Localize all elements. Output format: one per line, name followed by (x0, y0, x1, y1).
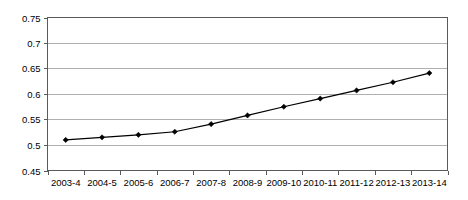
x-axis-tick-labels: 2003-42004-52005-62006-72007-82008-92009… (51, 177, 447, 188)
x-tick-label: 2009-10 (266, 177, 301, 188)
x-tick-label: 2007-8 (196, 177, 226, 188)
x-tick-label: 2011-12 (340, 177, 374, 188)
y-tick-label: 0.65 (22, 63, 41, 74)
y-tick-label: 0.6 (27, 89, 40, 100)
y-tick-label: 0.55 (22, 114, 41, 125)
x-tick-label: 2010-11 (303, 177, 337, 188)
x-tick-label: 2003-4 (51, 177, 81, 188)
x-tick-label: 2004-5 (87, 177, 117, 188)
y-tick-label: 0.5 (27, 140, 40, 151)
x-tick-label: 2006-7 (160, 177, 190, 188)
x-tick-label: 2012-13 (376, 177, 411, 188)
y-tick-label: 0.7 (27, 38, 40, 49)
x-tick-label: 2013-14 (412, 177, 447, 188)
line-chart: 0.750.70.650.60.550.50.45 2003-42004-520… (0, 0, 468, 200)
y-tick-label: 0.45 (22, 166, 41, 177)
x-tick-label: 2005-6 (124, 177, 154, 188)
y-tick-label: 0.75 (22, 13, 41, 24)
x-tick-label: 2008-9 (233, 177, 263, 188)
chart-canvas: 0.750.70.650.60.550.50.45 2003-42004-520… (0, 0, 468, 200)
